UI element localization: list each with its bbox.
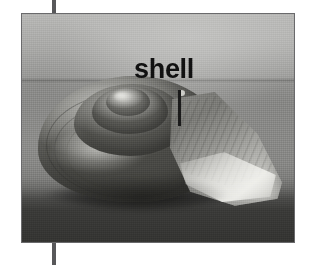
shell-apex-specular: [114, 92, 131, 101]
top-marker-rule: [52, 0, 56, 14]
snail-shell: [22, 14, 294, 242]
shell-under-shadow: [46, 164, 236, 210]
shell-label: shell: [134, 56, 194, 83]
photo-image: shell: [22, 14, 294, 242]
photo-plate: shell: [21, 13, 295, 243]
leader-line: [178, 90, 181, 126]
bottom-marker-rule: [52, 243, 56, 265]
figure-container: shell: [0, 0, 313, 265]
